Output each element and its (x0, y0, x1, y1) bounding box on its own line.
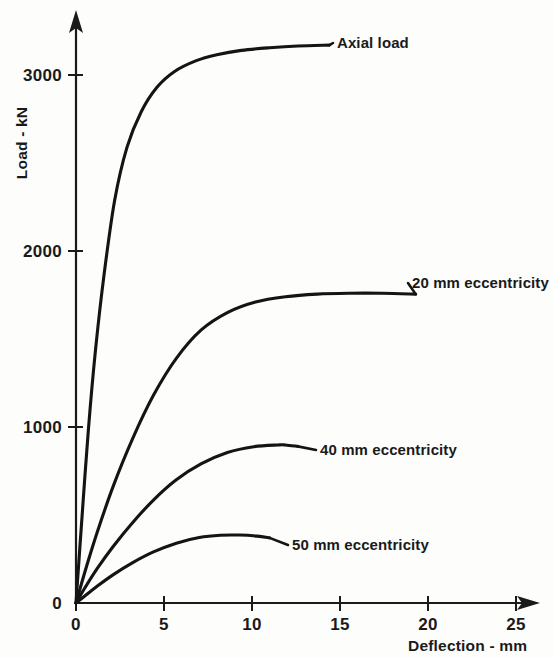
leader-line-50-mm-eccentricity (270, 538, 288, 545)
chart-canvas: 3000 2000 1000 0 0 5 10 15 20 25 Load - … (0, 0, 554, 658)
leader-line-axial-load (329, 43, 333, 45)
leader-line-40-mm-eccentricity (298, 446, 316, 450)
load-deflection-chart: 3000 2000 1000 0 0 5 10 15 20 25 Load - … (0, 0, 554, 658)
x-tick-label-5: 5 (159, 615, 169, 634)
y-axis-title: Load - kN (13, 107, 30, 179)
series-label-40mm: 40 mm eccentricity (320, 441, 457, 458)
x-tick-label-10: 10 (242, 615, 262, 634)
curve-50-mm-eccentricity (76, 535, 270, 603)
y-tick-label-1000: 1000 (23, 418, 62, 437)
x-tick-label-15: 15 (330, 615, 350, 634)
series-label-20mm: 20 mm eccentricity (412, 274, 549, 291)
data-curves (76, 45, 416, 603)
x-tick-label-0: 0 (71, 615, 81, 634)
curve-axial-load (76, 45, 329, 603)
y-tick-label-2000: 2000 (23, 242, 62, 261)
y-tick-label-3000: 3000 (23, 66, 62, 85)
series-label-50mm: 50 mm eccentricity (292, 536, 429, 553)
y-tick-label-0: 0 (52, 594, 62, 613)
series-label-axial-load: Axial load (337, 34, 409, 51)
x-tick-label-25: 25 (506, 615, 526, 634)
x-axis-title: Deflection - mm (408, 637, 527, 654)
x-tick-label-20: 20 (418, 615, 438, 634)
